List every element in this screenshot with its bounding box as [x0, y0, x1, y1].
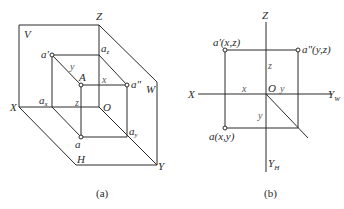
- y-axis: [99, 107, 157, 165]
- label-H: H: [76, 153, 86, 165]
- label-Y: Y: [158, 160, 166, 172]
- caption-a: (a): [96, 187, 109, 200]
- dim-x: x: [101, 74, 107, 85]
- label-a-double-prime-yz: a"(y,z): [302, 43, 331, 56]
- label-Z: Z: [262, 9, 269, 21]
- dim-x: x: [241, 83, 247, 94]
- construction-45-line: [266, 94, 308, 138]
- ax-to-a: [52, 107, 81, 137]
- h-plane-left-edge: [19, 107, 76, 165]
- a-prime-to-A: [52, 55, 81, 85]
- dim-z: z: [267, 60, 272, 71]
- dim-y-h: y: [257, 110, 263, 121]
- label-a-double-prime: a": [131, 78, 142, 90]
- label-Yh: YH: [268, 157, 280, 172]
- point-A: [79, 83, 83, 87]
- dim-z: z: [74, 97, 79, 108]
- label-Yw: YW: [328, 88, 341, 103]
- label-a-prime-xz: a'(x,z): [213, 36, 240, 49]
- v-plane-edge: [19, 25, 99, 107]
- label-a-prime: a': [41, 48, 50, 60]
- dim-y-w: y: [279, 83, 285, 94]
- label-A: A: [78, 71, 86, 83]
- label-O: O: [268, 82, 276, 94]
- label-X: X: [187, 88, 196, 100]
- dim-y: y: [69, 61, 75, 72]
- caption-b: (b): [264, 187, 277, 200]
- point-a-prime: [50, 53, 54, 57]
- label-V: V: [24, 28, 32, 40]
- projection-diagrams: Z V W H X O Y a' az A a" ax a ay y x z (…: [0, 0, 344, 209]
- label-a-xy: a(x,y): [209, 130, 235, 143]
- point-a-prime: [223, 48, 227, 52]
- label-az: az: [101, 42, 110, 56]
- diagram-a: Z V W H X O Y a' az A a" ax a ay y x z (…: [9, 10, 166, 200]
- label-ay: ay: [129, 125, 139, 139]
- label-X: X: [9, 101, 18, 113]
- point-a-double-prime: [296, 48, 300, 52]
- label-ax: ax: [39, 94, 49, 108]
- label-O: O: [103, 101, 111, 113]
- label-a: a: [75, 138, 81, 150]
- diagram-b: Z X O YW YH a'(x,z) a"(y,z) a(x,y) x y y…: [187, 9, 341, 200]
- point-a-double-prime: [125, 83, 129, 87]
- label-W: W: [146, 83, 156, 95]
- label-Z: Z: [96, 10, 103, 22]
